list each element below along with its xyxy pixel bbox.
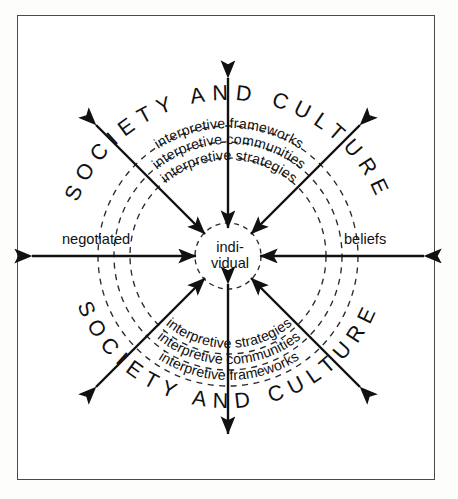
interpretive-model-diagram: SOCIETY AND CULTURE interpretive framewo… <box>0 0 458 499</box>
label-negotiated: negotiated <box>62 231 130 247</box>
diagram-page: SOCIETY AND CULTURE interpretive framewo… <box>0 0 458 499</box>
label-beliefs: beliefs <box>344 231 386 247</box>
center-label-line2: vidual <box>211 255 249 271</box>
center-label-line1: indi- <box>216 239 244 255</box>
center-individual-label: indi- vidual <box>211 239 249 271</box>
